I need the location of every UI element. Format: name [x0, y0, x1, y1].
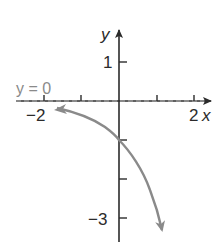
x-tick-label-2: 2 [189, 106, 198, 125]
y-tick-label-neg3: −3 [88, 210, 107, 229]
function-curve [57, 108, 162, 230]
y-axis-label: y [100, 25, 111, 44]
x-axis-label: x [201, 106, 211, 125]
x-tick-label-neg2: −2 [26, 106, 45, 125]
graph-canvas: y 1 −3 −2 2 x y = 0 [0, 0, 221, 248]
y-tick-label-1: 1 [103, 53, 112, 72]
asymptote-label: y = 0 [16, 80, 51, 97]
